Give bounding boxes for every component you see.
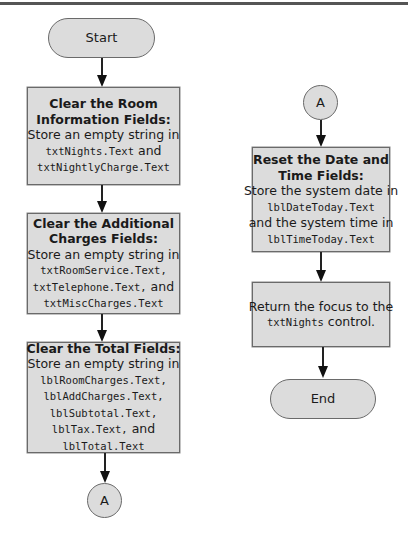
box-text: control. <box>324 314 375 329</box>
arrowhead-icon <box>100 471 110 483</box>
arrow-start-to-box1 <box>101 58 103 76</box>
code-ref: txtMiscCharges.Text <box>43 297 163 309</box>
code-ref: lblRoomCharges.Text, <box>40 374 166 386</box>
code-ref: lblAddCharges.Text, <box>43 390 163 402</box>
code-ref: txtNights <box>267 316 324 328</box>
process-reset-date-time: Reset the Date and Time Fields: Store th… <box>252 147 390 252</box>
end-terminal: End <box>270 379 376 419</box>
process-clear-room-info: Clear the Room Information Fields: Store… <box>27 87 180 185</box>
box-text: Return the focus to the <box>249 299 393 315</box>
box-title: Time Fields: <box>278 168 364 184</box>
box-text: and <box>134 143 162 158</box>
process-clear-additional-charges: Clear the Additional Charges Fields: Sto… <box>27 213 180 314</box>
arrowhead-icon <box>316 135 326 147</box>
box-title: Charges Fields: <box>49 231 158 247</box>
arrow-box2-to-box3 <box>101 314 103 331</box>
start-terminal: Start <box>48 18 155 58</box>
code-ref: txtRoomService.Text, <box>40 264 166 276</box>
arrowhead-icon <box>97 201 107 213</box>
connector-label: A <box>100 493 109 509</box>
box-text: Store an empty string in <box>28 127 180 143</box>
arrowhead-icon <box>316 270 326 282</box>
box-text: Store an empty string in <box>28 247 180 263</box>
code-ref: lblTotal.Text <box>62 440 144 452</box>
end-label: End <box>311 391 336 407</box>
code-ref: lblSubtotal.Text, <box>50 407 157 419</box>
box-text: and the system time in <box>249 215 394 231</box>
arrowhead-icon <box>318 366 328 378</box>
top-rule <box>0 2 408 5</box>
code-ref: lblTax.Text, <box>52 423 128 435</box>
box-title: Clear the Room <box>49 96 157 112</box>
arrow-box1-to-box2-right <box>320 252 322 271</box>
box-title: Clear the Total Fields: <box>26 341 180 357</box>
arrow-box1-to-box2 <box>101 185 103 202</box>
arrowhead-icon <box>97 75 107 87</box>
start-label: Start <box>86 30 118 46</box>
box-title: Information Fields: <box>36 112 170 128</box>
arrow-box3-to-connector <box>104 453 106 472</box>
process-clear-total-fields: Clear the Total Fields: Store an empty s… <box>27 342 180 453</box>
code-ref: txtTelephone.Text, <box>33 281 147 293</box>
arrow-box2-to-end <box>322 347 324 367</box>
code-ref: lblDateToday.Text <box>267 201 374 213</box>
box-text: and <box>128 421 156 436</box>
arrow-connector-to-box1 <box>320 120 322 136</box>
connector-label: A <box>316 95 325 111</box>
process-return-focus: Return the focus to the txtNights contro… <box>252 282 390 347</box>
box-text: Store the system date in <box>244 183 398 199</box>
code-ref: txtNights.Text <box>45 145 134 157</box>
connector-a-out: A <box>87 483 122 518</box>
connector-a-in: A <box>303 85 338 120</box>
box-title: Reset the Date and <box>253 152 389 168</box>
code-ref: lblTimeToday.Text <box>267 233 374 245</box>
box-text: and <box>147 279 175 294</box>
box-text: Store an empty string in <box>28 356 180 372</box>
box-title: Clear the Additional <box>33 216 174 232</box>
code-ref: txtNightlyCharge.Text <box>37 161 170 173</box>
